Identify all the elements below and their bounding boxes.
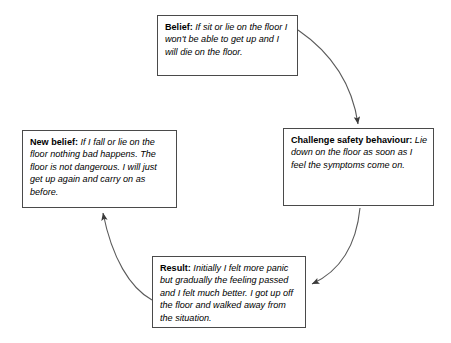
arrow-result-to-newbelief bbox=[103, 213, 152, 300]
node-challenge-lead: Challenge safety behaviour: bbox=[291, 135, 412, 145]
arrow-belief-to-challenge bbox=[298, 30, 358, 124]
node-result-lead: Result: bbox=[160, 263, 191, 273]
node-new-belief-lead: New belief: bbox=[30, 137, 78, 147]
diagram-canvas: Belief: If sit or lie on the floor I won… bbox=[0, 0, 451, 343]
node-belief-lead: Belief: bbox=[165, 22, 193, 32]
node-belief: Belief: If sit or lie on the floor I won… bbox=[157, 15, 298, 76]
arrow-challenge-to-result bbox=[312, 208, 360, 284]
node-challenge: Challenge safety behaviour: Lie down on … bbox=[283, 128, 434, 206]
node-new-belief: New belief: If I fall or lie on the floo… bbox=[22, 130, 177, 208]
node-result: Result: Initially I felt more panic but … bbox=[152, 256, 306, 328]
